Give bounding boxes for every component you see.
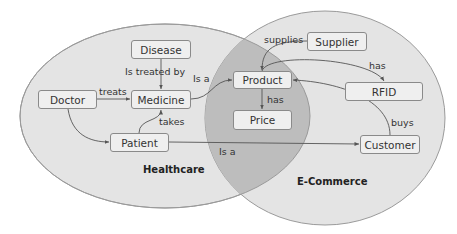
node-label: RFID <box>372 86 397 98</box>
region-label-ecommerce: E-Commerce <box>297 176 367 187</box>
region-label-healthcare: Healthcare <box>143 164 205 175</box>
node-supplier: Supplier <box>307 32 367 51</box>
edge-label-treats: treats <box>99 86 127 97</box>
node-label: Price <box>250 114 276 126</box>
edge-label-is-treated-by: Is treated by <box>125 66 185 77</box>
node-label: Doctor <box>50 94 85 106</box>
node-rfid: RFID <box>345 82 423 101</box>
node-price: Price <box>233 110 292 130</box>
node-product: Product <box>233 71 292 89</box>
node-patient: Patient <box>110 133 169 152</box>
node-customer: Customer <box>360 135 420 154</box>
node-label: Medicine <box>138 94 185 106</box>
node-label: Patient <box>121 137 158 149</box>
node-disease: Disease <box>131 40 191 59</box>
edge-label-has-price: has <box>267 94 284 105</box>
edge-label-supplies: supplies <box>264 34 303 45</box>
edge-label-is-a-medicine: Is a <box>193 73 210 84</box>
node-label: Product <box>243 74 283 86</box>
node-label: Disease <box>140 44 181 56</box>
edge-label-is-a-patient: Is a <box>219 146 236 157</box>
node-label: Supplier <box>315 36 358 48</box>
edge-label-buys: buys <box>391 117 414 128</box>
node-doctor: Doctor <box>38 90 97 109</box>
venn-diagram-canvas <box>0 0 457 234</box>
node-label: Customer <box>364 139 415 151</box>
edge-label-has-rfid: has <box>369 60 386 71</box>
node-medicine: Medicine <box>131 90 191 109</box>
edge-label-takes: takes <box>159 116 185 127</box>
